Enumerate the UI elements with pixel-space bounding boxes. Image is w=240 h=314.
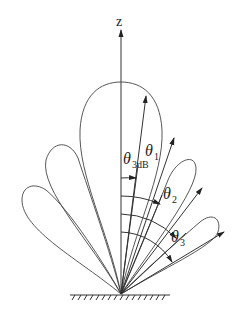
svg-text:1: 1 (154, 151, 159, 162)
z-axis-label: z (116, 14, 122, 29)
side-lobe-right-2 (121, 217, 219, 294)
svg-text:θ: θ (171, 228, 179, 245)
svg-text:2: 2 (172, 194, 177, 205)
side-lobe-left-1 (46, 145, 121, 294)
ground-plane (70, 295, 170, 300)
radiation-pattern-diagram: z θ 3dB θ 1 θ 2 θ 3 (0, 0, 240, 314)
side-lobe-right-1 (121, 159, 196, 294)
svg-text:3dB: 3dB (132, 159, 149, 170)
svg-text:θ: θ (163, 185, 171, 202)
theta-2-label: θ 2 (163, 185, 177, 205)
svg-text:θ: θ (123, 150, 131, 167)
svg-text:3: 3 (180, 237, 185, 248)
svg-text:θ: θ (145, 142, 153, 159)
